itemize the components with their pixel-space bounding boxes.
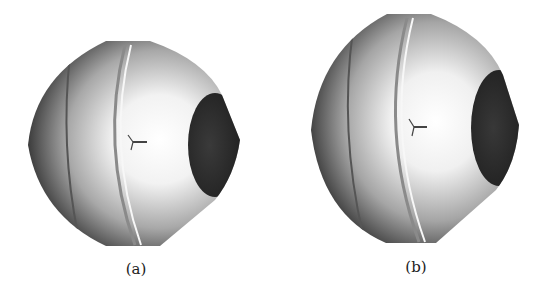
panel-label-a: (a) (116, 260, 156, 278)
sphere-a-face (188, 93, 242, 197)
sphere-b-face (471, 70, 527, 186)
panel-b: (b) (271, 0, 543, 304)
panel-label-b: (b) (396, 258, 436, 276)
panel-a: (a) (0, 0, 271, 304)
sphere-a-graphic (0, 0, 271, 304)
